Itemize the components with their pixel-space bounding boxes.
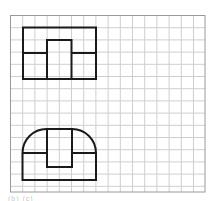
caption-text: (b) (c) xyxy=(8,195,34,201)
grid-figure xyxy=(0,0,213,201)
grid-lines xyxy=(11,16,206,193)
